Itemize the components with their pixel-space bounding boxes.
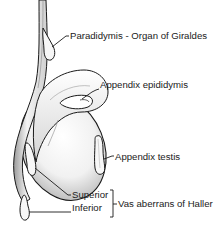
leader-paradidymis: [52, 36, 69, 47]
paradidymis: [43, 28, 55, 60]
label-paradidymis: Paradidymis - Organ of Giraldes: [70, 31, 207, 41]
label-vas-aberrans: Vas aberrans of Haller: [118, 199, 213, 209]
label-appendix-epididymis: Appendix epididymis: [100, 80, 188, 90]
label-superior: Superior: [72, 190, 108, 200]
bracket: [110, 190, 113, 217]
label-appendix-testis: Appendix testis: [115, 152, 180, 162]
label-inferior: Inferior: [72, 203, 102, 213]
